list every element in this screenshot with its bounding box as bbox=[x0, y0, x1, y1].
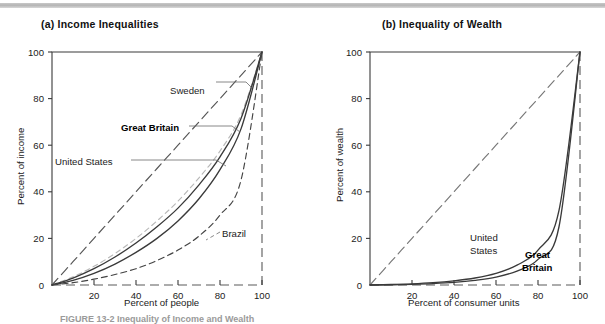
svg-text:60: 60 bbox=[351, 140, 362, 151]
curve-label-britain: Britain bbox=[522, 262, 552, 273]
curve-label-great: Great bbox=[525, 249, 550, 260]
svg-text:80: 80 bbox=[351, 93, 362, 104]
svg-text:100: 100 bbox=[572, 290, 588, 301]
svg-text:20: 20 bbox=[351, 233, 362, 244]
panel-b-x-axis-label: Percent of consumer units bbox=[408, 297, 519, 308]
panel-b-y-axis-label: Percent of wealth bbox=[334, 128, 345, 202]
svg-text:80: 80 bbox=[533, 290, 544, 301]
panel-b-chart: 02040608010020406080100 bbox=[0, 0, 605, 324]
svg-text:0: 0 bbox=[357, 280, 362, 291]
figure-caption: FIGURE 13-2 Inequality of Income and Wea… bbox=[60, 314, 530, 324]
figure-root: (a) Income Inequalities (b) Inequality o… bbox=[0, 0, 605, 324]
curve-label-united: United bbox=[470, 232, 498, 243]
curve-label-states: States bbox=[470, 245, 497, 256]
svg-text:40: 40 bbox=[351, 186, 362, 197]
svg-text:100: 100 bbox=[346, 47, 362, 58]
